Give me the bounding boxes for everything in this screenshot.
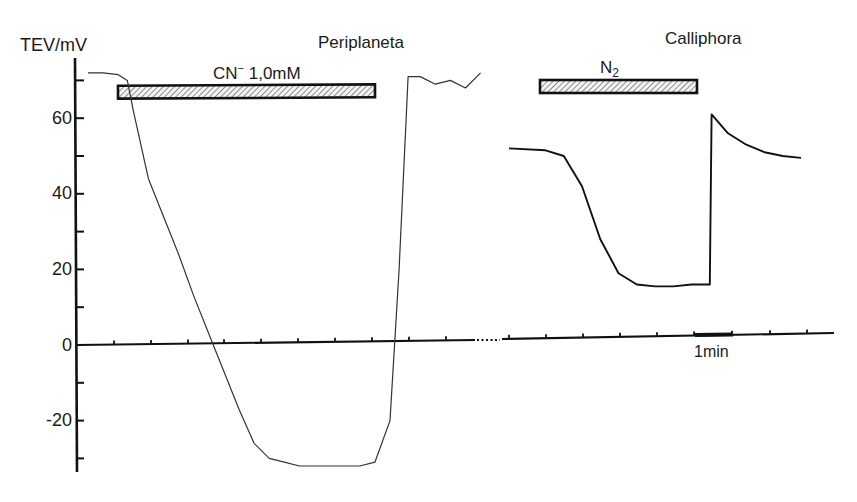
y-tick-label-60: 60 bbox=[32, 109, 72, 127]
y-tick-label-0: 0 bbox=[32, 336, 72, 354]
n2-treatment-bar bbox=[540, 80, 697, 93]
panel-title-calliphora: Calliphora bbox=[665, 30, 742, 47]
y-tick-label-40: 40 bbox=[32, 184, 72, 202]
periplaneta-trace bbox=[88, 73, 481, 466]
n2-treatment-label: N2 bbox=[600, 59, 619, 79]
cn-treatment-label: CN− 1,0mM bbox=[213, 63, 301, 82]
panel-title-periplaneta: Periplaneta bbox=[318, 34, 404, 51]
y-axis-title: TEV/mV bbox=[20, 36, 87, 54]
cn-treatment-bar bbox=[118, 84, 375, 98]
scale-bar-label: 1min bbox=[694, 344, 729, 360]
calliphora-trace bbox=[509, 114, 801, 286]
y-axis bbox=[75, 58, 84, 472]
y-tick-label-20: 20 bbox=[32, 260, 72, 278]
chart-figure bbox=[0, 0, 857, 502]
y-tick-label-neg20: -20 bbox=[32, 411, 72, 429]
scale-bar-1min bbox=[695, 335, 733, 336]
